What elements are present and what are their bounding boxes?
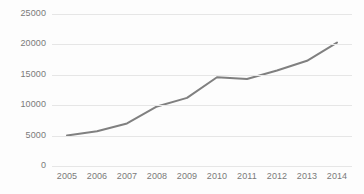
series-line-path bbox=[67, 43, 337, 136]
y-tick-label: 10000 bbox=[0, 99, 46, 109]
y-tick-label: 20000 bbox=[0, 38, 46, 48]
y-gridline bbox=[52, 166, 352, 167]
series-line-svg bbox=[52, 14, 352, 166]
y-tick-label: 5000 bbox=[0, 130, 46, 140]
line-chart: 0500010000150002000025000200520062007200… bbox=[0, 0, 364, 194]
y-tick-label: 0 bbox=[0, 160, 46, 170]
y-gridline bbox=[52, 14, 352, 15]
y-tick-label: 25000 bbox=[0, 8, 46, 18]
y-gridline bbox=[52, 75, 352, 76]
y-gridline bbox=[52, 136, 352, 137]
y-gridline bbox=[52, 105, 352, 106]
x-tick-label: 2014 bbox=[317, 171, 357, 181]
y-tick-label: 15000 bbox=[0, 69, 46, 79]
y-gridline bbox=[52, 44, 352, 45]
plot-area bbox=[52, 14, 352, 166]
